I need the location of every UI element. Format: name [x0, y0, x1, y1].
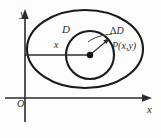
point-p-label: P(x,y) [112, 41, 136, 51]
subregion-radius-line [90, 41, 107, 55]
subregion-radius-arrow [90, 39, 110, 56]
subregion-label: ΔD [110, 26, 124, 36]
origin-label: O [17, 99, 24, 109]
figure-canvas [0, 0, 161, 138]
x-axis-arrowhead [142, 94, 152, 101]
subregion-name: D [116, 25, 123, 36]
x-axis-label: x [147, 104, 152, 115]
figure-container: y x O D x ΔD P(x,y) [0, 0, 161, 138]
x-axis-group [5, 94, 152, 101]
outer-region-label: D [62, 24, 70, 35]
point-p-marker [87, 52, 93, 58]
radius-label: x [54, 40, 58, 50]
y-axis-label: y [20, 8, 25, 19]
